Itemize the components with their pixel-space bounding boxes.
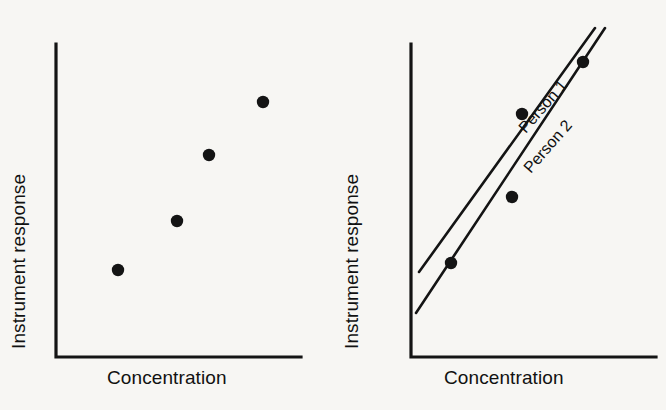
- y-axis-label: Instrument response: [9, 174, 28, 349]
- data-point: [577, 56, 589, 68]
- panel-right-plot-area: [333, 0, 666, 410]
- data-point: [506, 191, 518, 203]
- y-axis-label: Instrument response: [342, 174, 361, 349]
- panel-left-scatter: Concentration Instrument response: [0, 0, 333, 410]
- fit-line-person-1: [419, 28, 595, 272]
- panel-left-plot-area: [0, 0, 333, 410]
- data-point: [171, 215, 183, 227]
- axes-lines-right: [411, 44, 656, 357]
- fit-line-person-2: [416, 28, 605, 313]
- data-point: [257, 96, 269, 108]
- two-panel-scatter-figure: Concentration Instrument response Person…: [0, 0, 666, 410]
- data-point: [112, 264, 124, 276]
- data-point: [203, 149, 215, 161]
- axes-lines-left: [56, 44, 301, 357]
- data-point: [445, 257, 457, 269]
- panel-right-scatter: Person 1 Person 2 Concentration Instrume…: [333, 0, 666, 410]
- x-axis-label: Concentration: [107, 368, 227, 387]
- x-axis-label: Concentration: [444, 368, 564, 387]
